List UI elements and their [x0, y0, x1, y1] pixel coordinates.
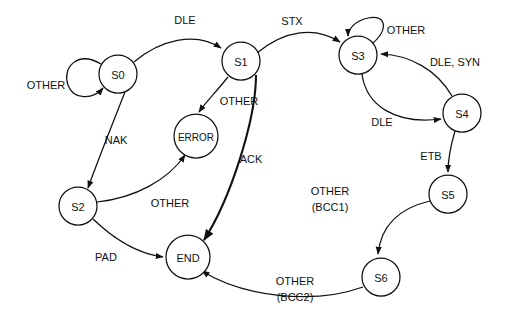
- node-label-s1: S1: [234, 56, 247, 68]
- edge-label-s6-end-line2: (BCC2): [277, 291, 314, 303]
- edge-path-s1-s3: [257, 32, 340, 53]
- edge-s4-s3-dle-syn: DLE, SYN: [381, 54, 480, 96]
- edge-label-s5-s6-line2: (BCC1): [312, 201, 349, 213]
- node-s0[interactable]: S0: [99, 55, 137, 93]
- edge-s1-s3-stx: STX: [257, 15, 340, 53]
- node-s2[interactable]: S2: [59, 187, 97, 225]
- edge-path-s4-s5: [448, 131, 455, 172]
- state-diagram-canvas: OTHER DLE NAK STX OTHER ACK: [0, 0, 514, 332]
- edge-label-s0-s2: NAK: [105, 134, 128, 146]
- edge-label-s4-s5: ETB: [420, 150, 441, 162]
- edge-s0-s1-dle: DLE: [134, 14, 221, 62]
- state-diagram: OTHER DLE NAK STX OTHER ACK: [0, 0, 514, 332]
- node-label-end: END: [176, 252, 199, 264]
- edge-label-s0-self: OTHER: [27, 79, 66, 91]
- edge-s3-s4-dle: DLE: [362, 74, 441, 128]
- edge-s4-s5-etb: ETB: [420, 131, 455, 172]
- edge-s1-error-other: OTHER: [199, 77, 258, 112]
- edge-label-s2-end: PAD: [95, 251, 117, 263]
- edge-s0-s2-nak: NAK: [88, 92, 128, 188]
- edge-s2-end-pad: PAD: [93, 219, 163, 263]
- node-s6[interactable]: S6: [362, 258, 400, 296]
- edge-path-s3-s4: [362, 74, 441, 120]
- node-label-s6: S6: [374, 272, 387, 284]
- edge-s6-end-other-bcc2: OTHER (BCC2): [202, 271, 363, 303]
- node-s5[interactable]: S5: [429, 175, 467, 213]
- node-label-error: ERROR: [178, 132, 214, 143]
- node-error[interactable]: ERROR: [174, 114, 218, 158]
- node-s3[interactable]: S3: [339, 36, 377, 74]
- node-label-s5: S5: [441, 189, 454, 201]
- edge-label-s5-s6-line1: OTHER: [311, 185, 350, 197]
- edge-path-s5-s6: [378, 201, 430, 254]
- edge-path-s0-s1: [134, 39, 221, 62]
- edge-label-s2-error: OTHER: [151, 197, 190, 209]
- edge-s0-self-other: OTHER: [27, 59, 103, 97]
- edge-label-s4-s3: DLE, SYN: [430, 56, 480, 68]
- edge-s5-s6-other-bcc1: OTHER (BCC1): [311, 185, 430, 254]
- node-label-s4: S4: [455, 108, 468, 120]
- edge-label-s3-self: OTHER: [387, 24, 426, 36]
- edge-label-s6-end-line1: OTHER: [276, 275, 315, 287]
- node-end[interactable]: END: [166, 235, 210, 279]
- node-s1[interactable]: S1: [222, 42, 260, 80]
- edge-label-s3-s4: DLE: [371, 116, 392, 128]
- edge-label-s0-s1: DLE: [174, 14, 195, 26]
- edge-path-s2-error: [97, 155, 185, 202]
- node-label-s2: S2: [71, 201, 84, 213]
- node-label-s0: S0: [111, 69, 124, 81]
- edge-label-s1-end: ACK: [240, 153, 263, 165]
- edge-path-s0-self: [67, 59, 103, 97]
- edge-s2-error-other: OTHER: [97, 155, 189, 209]
- node-s4[interactable]: S4: [443, 94, 481, 132]
- edge-label-s1-s3: STX: [281, 15, 303, 27]
- node-label-s3: S3: [351, 50, 364, 62]
